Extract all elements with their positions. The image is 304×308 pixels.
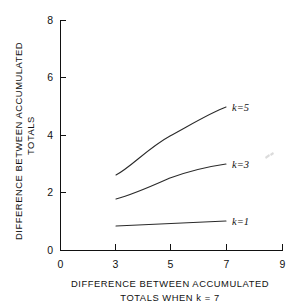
series-labels-group: k=5 k=3 k=1 — [232, 102, 249, 227]
x-ticklabel-9: 9 — [280, 258, 286, 270]
line-chart-svg: 8 6 4 2 0 0 3 5 7 9 DIFFERENCE BETWEEN A… — [0, 0, 304, 308]
x-axis-title-line2: TOTALS WHEN k = 7 — [120, 292, 219, 303]
x-ticklabel-0: 0 — [58, 258, 64, 270]
y-ticklabels-group: 8 6 4 2 0 — [47, 14, 53, 256]
series-line-k3 — [116, 164, 226, 199]
y-axis-title-line1: DIFFERENCE BETWEEN ACCUMULATED — [13, 42, 24, 240]
series-line-k1 — [116, 221, 226, 226]
y-ticklabel-6: 6 — [47, 71, 53, 83]
y-ticklabel-0: 0 — [47, 244, 53, 256]
series-label-k5: k=5 — [232, 102, 249, 113]
x-ticklabel-5: 5 — [168, 258, 174, 270]
x-axis-title: DIFFERENCE BETWEEN ACCUMULATED TOTALS WH… — [71, 278, 269, 303]
x-ticklabel-7: 7 — [224, 258, 230, 270]
chart-figure: 8 6 4 2 0 0 3 5 7 9 DIFFERENCE BETWEEN A… — [0, 0, 304, 308]
y-axis-title-line2: TOTALS — [25, 116, 36, 155]
x-axis-title-line1: DIFFERENCE BETWEEN ACCUMULATED — [71, 278, 269, 289]
y-axis-title: DIFFERENCE BETWEEN ACCUMULATED TOTALS — [13, 42, 36, 240]
x-ticklabel-3: 3 — [113, 258, 119, 270]
y-ticklabel-2: 2 — [47, 186, 53, 198]
y-ticklabel-4: 4 — [47, 129, 53, 141]
series-label-k3: k=3 — [232, 159, 249, 170]
scan-artifact — [265, 152, 274, 159]
series-group — [116, 107, 226, 226]
y-ticks-group — [61, 21, 67, 251]
x-ticklabels-group: 0 3 5 7 9 — [58, 258, 286, 270]
y-ticklabel-8: 8 — [47, 14, 53, 26]
series-label-k1: k=1 — [232, 216, 249, 227]
series-line-k5 — [116, 107, 226, 175]
x-ticks-group — [61, 244, 283, 251]
